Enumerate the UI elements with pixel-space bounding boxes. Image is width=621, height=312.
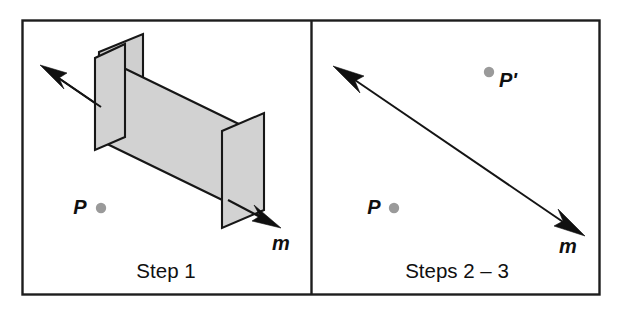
- mirror-axis-line-step23: [349, 76, 569, 226]
- mirror-axis-arrowhead-upper-left-step23: [333, 66, 364, 93]
- panel-step-1: P m Step 1: [40, 34, 290, 282]
- mirror-axis-arrowhead-lower-right-step23: [554, 209, 585, 236]
- panel-steps-2-3: P P' m Steps 2 – 3: [333, 66, 585, 282]
- point-p-label-step23: P: [367, 196, 381, 218]
- point-p-prime-dot-step23: [484, 67, 494, 77]
- mirror-plane-near-left-step1: [95, 44, 125, 150]
- point-p-dot-step23: [389, 203, 399, 213]
- figure-root: P m Step 1 P P' m Steps 2: [0, 0, 621, 312]
- axis-m-label-step23: m: [559, 235, 577, 257]
- axis-m-label-step1: m: [272, 232, 290, 254]
- point-p-prime-label-step23: P': [499, 69, 518, 91]
- point-p-label-step1: P: [73, 196, 87, 218]
- point-p-dot-step1: [96, 203, 106, 213]
- figure-canvas: P m Step 1 P P' m Steps 2: [0, 0, 621, 312]
- panel-caption-step-1: Step 1: [136, 259, 195, 282]
- mirror-axis-arrowhead-upper-left-step1: [40, 65, 67, 89]
- mirror-axis-arrowhead-lower-right-step1: [252, 205, 281, 228]
- panel-caption-steps-2-3: Steps 2 – 3: [405, 259, 509, 282]
